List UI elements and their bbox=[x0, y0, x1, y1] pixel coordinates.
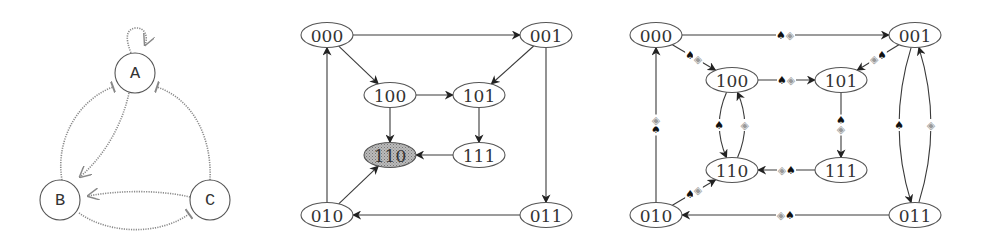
spade-icon: ♠ bbox=[777, 74, 787, 87]
labeled-transition-edge-labels: ♠◈♠◈♠◈♠◈♠◈♠◈♠◈♠◈♠◈♠◈♠◈ bbox=[651, 29, 936, 222]
node-label: 010 bbox=[311, 206, 343, 226]
spade-icon: ♠ bbox=[776, 29, 786, 42]
spade-icon: ♠ bbox=[786, 164, 796, 177]
state-transition-graph: 000001100101110111010011 bbox=[301, 23, 572, 228]
diamond-icon: ◈ bbox=[694, 184, 703, 197]
edge-B-inhibits-A bbox=[61, 87, 113, 180]
diagram-canvas: A B C 000001100101110111010011 ♠◈♠◈♠◈♠◈♠… bbox=[0, 0, 983, 245]
state-transition-edges bbox=[327, 35, 546, 215]
node-C[interactable]: C bbox=[190, 180, 230, 220]
diamond-icon: ◈ bbox=[777, 209, 786, 222]
node-label: 000 bbox=[640, 26, 672, 46]
node-000[interactable]: 000 bbox=[301, 23, 353, 48]
node-011[interactable]: 011 bbox=[889, 203, 941, 228]
node-label: 111 bbox=[463, 146, 495, 166]
node-label: A bbox=[130, 64, 141, 83]
node-001[interactable]: 001 bbox=[520, 23, 572, 48]
diamond-icon: ◈ bbox=[870, 53, 879, 66]
node-label: 000 bbox=[311, 26, 343, 46]
node-100[interactable]: 100 bbox=[364, 83, 416, 108]
node-011[interactable]: 011 bbox=[520, 203, 572, 228]
node-label: 110 bbox=[716, 161, 748, 181]
diamond-icon: ◈ bbox=[778, 164, 787, 177]
edge-A-self-loop bbox=[127, 28, 146, 53]
node-A[interactable]: A bbox=[115, 53, 155, 93]
diamond-icon: ◈ bbox=[837, 123, 846, 136]
diamond-icon: ◈ bbox=[694, 53, 703, 66]
node-label: C bbox=[205, 191, 215, 210]
node-000[interactable]: 000 bbox=[630, 23, 682, 48]
spade-icon: ♠ bbox=[785, 209, 795, 222]
state-transition-nodes: 000001100101110111010011 bbox=[301, 23, 572, 228]
node-101[interactable]: 101 bbox=[815, 68, 867, 93]
node-111[interactable]: 111 bbox=[453, 143, 505, 168]
diamond-icon: ◈ bbox=[740, 119, 749, 132]
node-label: 011 bbox=[899, 206, 931, 226]
node-label: 110 bbox=[374, 146, 406, 166]
regulatory-nodes: A B C bbox=[40, 53, 230, 220]
node-label: 001 bbox=[899, 26, 931, 46]
labeled-transition-graph: ♠◈♠◈♠◈♠◈♠◈♠◈♠◈♠◈♠◈♠◈♠◈ 00000110010111011… bbox=[630, 23, 941, 228]
diamond-icon: ◈ bbox=[927, 119, 936, 132]
edge-C-activates-B bbox=[88, 192, 190, 197]
edge-C-inhibits-A bbox=[157, 87, 210, 180]
node-label: B bbox=[55, 191, 65, 210]
node-label: 011 bbox=[530, 206, 562, 226]
node-001[interactable]: 001 bbox=[889, 23, 941, 48]
edge-B-inhibits-C bbox=[79, 213, 189, 230]
node-label: 100 bbox=[716, 71, 748, 91]
edge-010-to-110 bbox=[339, 166, 379, 204]
diamond-icon: ◈ bbox=[652, 114, 661, 127]
spade-icon: ♠ bbox=[894, 119, 904, 132]
node-010[interactable]: 010 bbox=[630, 203, 682, 228]
node-110[interactable]: 110 bbox=[706, 158, 758, 183]
regulatory-network-graph: A B C bbox=[40, 28, 230, 230]
diamond-icon: ◈ bbox=[786, 29, 795, 42]
node-label: 111 bbox=[825, 161, 857, 181]
node-110[interactable]: 110 bbox=[364, 143, 416, 168]
edge-000-to-100 bbox=[339, 46, 379, 84]
node-010[interactable]: 010 bbox=[301, 203, 353, 228]
node-111[interactable]: 111 bbox=[815, 158, 867, 183]
spade-icon: ♠ bbox=[714, 119, 724, 132]
node-label: 101 bbox=[463, 86, 495, 106]
node-label: 100 bbox=[374, 86, 406, 106]
edge-001-to-101 bbox=[491, 46, 533, 84]
node-101[interactable]: 101 bbox=[453, 83, 505, 108]
node-label: 101 bbox=[825, 71, 857, 91]
node-100[interactable]: 100 bbox=[706, 68, 758, 93]
node-label: 010 bbox=[640, 206, 672, 226]
diamond-icon: ◈ bbox=[787, 74, 796, 87]
node-label: 001 bbox=[530, 26, 562, 46]
edge-A-activates-B bbox=[80, 93, 129, 177]
node-B[interactable]: B bbox=[40, 180, 80, 220]
